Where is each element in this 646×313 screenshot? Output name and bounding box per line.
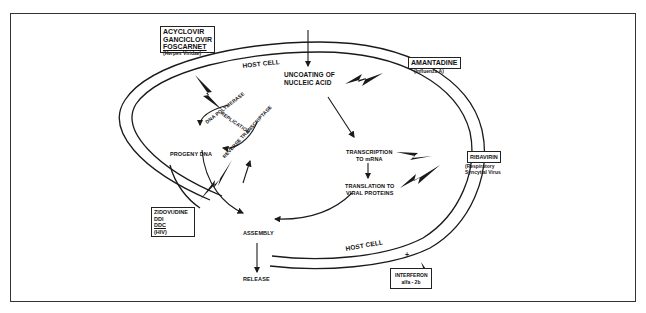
drug-target-influenza: (Influenza A) [414,68,444,74]
step-release: RELEASE [243,276,270,284]
replication-cycle-diagram [0,0,646,313]
step-assembly: ASSEMBLY [243,230,274,238]
bolt-amantadine-icon [345,73,383,86]
step-uncoating: UNCOATING OF NUCLEIC ACID [284,71,335,86]
bolt-herpes-icon [195,75,222,110]
bolt-ribavirin-transcription-icon [396,152,432,160]
drug-box-hiv: ZIDOVUDINE DDI DDC (HIV) [151,207,195,237]
bolt-ribavirin-translation-icon [400,165,440,188]
step-transcription: TRANSCRIPTION TO mRNA [346,149,393,162]
drug-target-rsv: (Respiratory Syncytial Virus [465,163,501,175]
interferon-plus-sign: + [405,252,409,258]
drug-target-herpes: (Herpes Viridae) [163,50,201,56]
step-translation: TRANSLATION TO VIRAL PROTEINS [345,183,394,196]
step-progeny-dna: PROGENY DNA [170,151,212,159]
drug-box-interferon: INTERFERON alfa - 2b [390,268,432,289]
drug-box-herpes: ACYCLOVIR GANCICLOVIR FOSCARNET [160,26,215,53]
drug-box-ribavirin: RIBAVIRIN [467,151,501,163]
